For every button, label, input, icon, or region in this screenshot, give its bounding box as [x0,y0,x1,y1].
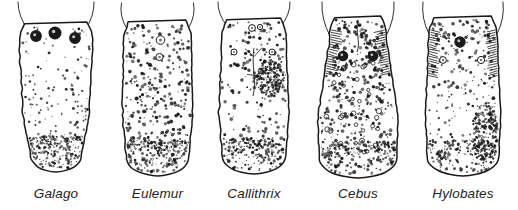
papilla-dot [463,93,464,94]
shade-dot [281,78,283,80]
papilla-dot [479,27,481,29]
papilla-dot [475,123,477,125]
papilla-dot [259,164,260,165]
papilla-dot [332,60,334,62]
papilla-dot [488,120,489,121]
tip-dot [444,145,446,147]
tip-dot [155,163,156,164]
papilla-dot [442,25,444,27]
shade-dot [478,108,479,109]
papilla-dot [173,37,175,39]
papilla-dot [81,30,83,32]
papilla-dot [37,27,38,28]
tip-dot [156,150,157,151]
tip-dot [160,162,162,164]
papilla-dot [148,81,152,85]
papilla-dot [285,74,286,75]
tip-dot [262,140,263,141]
tip-dot [373,145,375,147]
papilla-dot [177,82,181,86]
papilla-dot [387,136,389,138]
tip-dot [335,153,337,155]
papilla-dot [76,161,77,162]
papilla-dot [247,126,250,129]
tip-dot [246,155,247,156]
tip-dot [235,154,237,156]
papilla-dot [281,97,284,100]
tip-dot [377,144,379,146]
shade-dot [265,67,267,69]
papilla-dot [338,61,340,63]
tip-dot [153,141,155,143]
shade-dot [473,132,476,135]
tip-dot [329,159,331,161]
papilla-dot [241,67,243,69]
tip-dot [430,150,431,151]
papilla-dot [326,109,330,113]
papilla-dot [430,133,431,134]
tip-dot [154,154,156,156]
papilla-dot [478,84,480,86]
tip-dot [369,150,370,151]
papilla-dot [28,121,30,123]
tip-dot [239,149,241,151]
tip-dot [136,140,137,141]
papilla-dot [35,120,36,121]
tip-dot [493,161,494,162]
papilla-dot [242,39,245,42]
tip-dot [351,172,353,174]
papilla-dot [226,155,227,156]
shade-dot [483,131,485,133]
papilla-dot [134,159,137,162]
papilla-dot [151,108,153,110]
tip-dot [271,155,272,156]
tip-dot [371,163,372,164]
papilla-dot [57,103,58,104]
tip-dot [246,146,247,147]
papilla-dot [339,87,340,88]
papilla-dot [349,43,351,45]
shade-dot [485,125,487,127]
papilla-dot [343,27,345,29]
papilla-dot [85,118,87,120]
tip-dot [446,156,448,158]
papilla-dot [451,118,452,119]
papilla-dot [162,167,164,169]
papilla-dot [131,83,132,84]
tip-dot [56,137,57,138]
papilla-dot [237,167,238,168]
papilla-dot [492,74,495,77]
vallate-papilla [368,51,377,60]
shade-dot [276,70,278,72]
papilla-dot [472,169,474,171]
tip-dot [65,155,67,157]
papilla-dot [150,45,152,47]
tip-dot [79,138,82,141]
tip-dot [57,158,58,159]
papilla-dot [346,28,349,31]
tip-dot [263,140,264,141]
tip-dot [151,147,153,149]
papilla-dot [139,64,142,67]
papilla-dot [153,124,154,125]
papilla-dot [432,22,436,26]
papilla-dot [183,106,184,107]
papilla-dot [348,172,351,175]
papilla-dot [478,119,481,122]
tip-dot [48,139,49,140]
papilla-dot [180,24,183,27]
papilla-dot [133,32,135,34]
papilla-dot [126,127,128,129]
tip-dot [481,154,483,156]
papilla-dot [62,74,64,76]
papilla-dot [72,28,74,30]
papilla-dot [341,99,342,100]
papilla-dot [169,105,170,106]
papilla-dot [52,89,55,92]
papilla-highlight [340,53,343,56]
papilla-dot [61,113,63,115]
tip-dot [436,158,438,160]
papilla-dot [346,35,349,38]
shade-dot [269,61,271,63]
tip-dot [143,157,144,158]
